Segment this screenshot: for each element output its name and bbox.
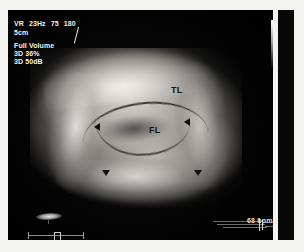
caliper-marker bbox=[54, 232, 61, 240]
heart-rate-label: 68 bpm bbox=[247, 217, 273, 224]
true-lumen-label: TL bbox=[171, 85, 183, 95]
header-parameters: VR23Hz75180 bbox=[14, 20, 81, 28]
transducer-stem-icon bbox=[48, 219, 49, 224]
header-param-value-2: 180 bbox=[64, 20, 76, 27]
ruler-tick bbox=[28, 232, 29, 239]
render-gain-label: 3D 36% bbox=[14, 50, 40, 58]
arrowhead-icon-inferior-left bbox=[102, 170, 110, 176]
right-dark-strip bbox=[278, 10, 294, 240]
volume-mode-label: Full Volume bbox=[14, 42, 54, 50]
ultrasound-screenshot: VR23Hz75180 5cm Full Volume 3D 36% 3D 50… bbox=[0, 0, 304, 252]
depth-scale-ruler bbox=[28, 232, 84, 239]
header-param-mode: VR bbox=[14, 20, 24, 27]
grayscale-reference-bar bbox=[271, 20, 273, 68]
arrowhead-icon-left bbox=[94, 123, 100, 131]
render-dynamic-range-label: 3D 50dB bbox=[14, 58, 43, 66]
depth-label: 5cm bbox=[14, 29, 28, 37]
header-param-value-1: 75 bbox=[51, 20, 59, 27]
header-param-rate: 23Hz bbox=[29, 20, 46, 27]
arrowhead-icon-inferior-right bbox=[194, 170, 202, 176]
false-lumen-label: FL bbox=[149, 125, 161, 135]
arrowhead-icon-right bbox=[184, 118, 190, 126]
ruler-tick bbox=[83, 232, 84, 239]
